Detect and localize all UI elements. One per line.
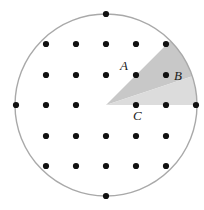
- dot-r3c5: [163, 102, 169, 108]
- figure-container: ABC: [0, 0, 204, 210]
- dot-r2c3: [103, 72, 109, 78]
- dot-r4c1: [43, 133, 49, 139]
- dot-r1c5: [163, 41, 169, 47]
- dot-r3c1: [43, 102, 49, 108]
- diagram-svg: ABC: [0, 0, 204, 210]
- dot-a: [133, 72, 139, 78]
- dot-r3c0: [13, 102, 19, 108]
- dot-r2c1: [43, 72, 49, 78]
- dot-r5c4: [133, 163, 139, 169]
- dot-r4c5: [163, 133, 169, 139]
- dot-b: [163, 72, 169, 78]
- label-b: B: [174, 68, 182, 83]
- dot-r1c1: [43, 41, 49, 47]
- dot-bottom: [103, 193, 109, 199]
- dot-r5c3: [103, 163, 109, 169]
- label-a: A: [119, 58, 128, 73]
- dot-r1c2: [73, 41, 79, 47]
- dot-r1c4: [133, 41, 139, 47]
- dot-r3c6: [193, 102, 199, 108]
- dot-r2c2: [73, 72, 79, 78]
- dot-r4c3: [103, 133, 109, 139]
- label-c: C: [133, 108, 142, 123]
- dot-r5c2: [73, 163, 79, 169]
- dot-r5c5: [163, 163, 169, 169]
- dot-r5c1: [43, 163, 49, 169]
- dot-r4c4: [133, 133, 139, 139]
- dot-top: [103, 11, 109, 17]
- dot-r4c2: [73, 133, 79, 139]
- dot-r3c2: [73, 102, 79, 108]
- dot-r1c3: [103, 41, 109, 47]
